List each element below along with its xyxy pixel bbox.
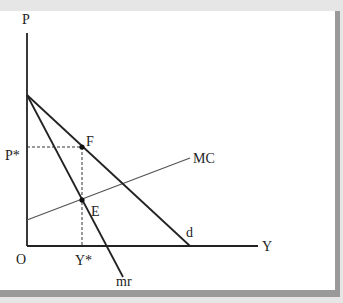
mc-label: MC: [193, 151, 215, 166]
point-f-marker: [79, 144, 84, 149]
price-axis-label: P: [22, 12, 30, 27]
origin-label: O: [16, 252, 26, 267]
diagram-panel: [0, 11, 335, 290]
diagram-canvas: P Y O P* Y* F E MC d mr: [0, 0, 343, 303]
point-e-label: E: [91, 204, 100, 219]
figure-frame: P Y O P* Y* F E MC d mr: [0, 0, 343, 303]
y-star-label: Y*: [75, 253, 92, 268]
mr-label: mr: [116, 274, 132, 289]
p-star-label: P*: [5, 148, 20, 163]
quantity-axis-label: Y: [262, 239, 272, 254]
point-e-marker: [79, 197, 84, 202]
demand-label: d: [186, 225, 193, 240]
point-f-label: F: [86, 134, 94, 149]
